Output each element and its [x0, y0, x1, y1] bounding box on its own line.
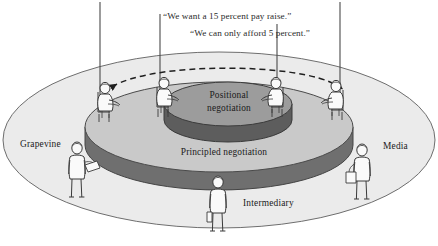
quote-offer: “We can only afford 5 percent.”	[190, 28, 310, 38]
grapevine-label: Grapevine	[20, 139, 61, 149]
positional-negotiation-label-line2: negotiation	[207, 103, 251, 113]
principled-negotiation-label: Principled negotiation	[181, 147, 268, 157]
diagram-canvas: Positional negotiation Principled negoti…	[0, 0, 438, 246]
media-label: Media	[383, 141, 409, 151]
positional-negotiation-label-line1: Positional	[209, 90, 248, 100]
quote-demand: “We want a 15 percent pay raise.”	[163, 11, 291, 21]
intermediary-label: Intermediary	[243, 198, 294, 208]
negotiation-diagram: Positional negotiation Principled negoti…	[0, 0, 438, 246]
